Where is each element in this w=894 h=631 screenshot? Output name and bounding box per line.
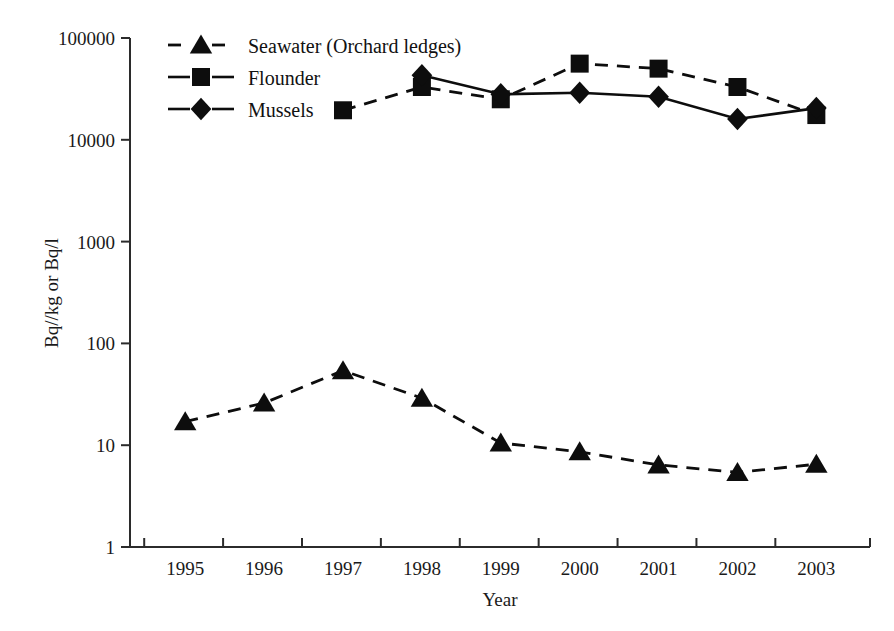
x-tick-label: 1996 [245, 558, 283, 579]
x-axis: 199519961997199819992000200120022003 Yea… [130, 538, 870, 610]
y-axis: 100000100001000100101 Bq//kg or Bq/l [41, 28, 130, 558]
x-axis-title: Year [482, 589, 518, 610]
y-tick-label: 100 [87, 333, 116, 354]
y-tick-label: 1000 [77, 232, 115, 253]
data-point-marker [728, 78, 746, 96]
data-point-marker [650, 60, 668, 78]
plot-series-lines [185, 64, 816, 473]
data-point-marker [727, 108, 748, 131]
series-line-seawater-orchard-ledges [185, 371, 816, 473]
data-point-marker [411, 388, 433, 407]
data-point-marker [490, 433, 512, 452]
y-axis-title: Bq//kg or Bq/l [41, 238, 62, 348]
legend-item: Seawater (Orchard ledges) [168, 35, 461, 59]
y-axis-ticks [121, 38, 130, 547]
data-point-marker [648, 85, 669, 108]
legend-marker-diamond-icon [191, 98, 212, 121]
legend-marker-triangle-icon [190, 35, 212, 54]
data-point-marker [253, 392, 275, 411]
x-tick-label: 2000 [561, 558, 599, 579]
y-tick-label: 10000 [68, 130, 116, 151]
y-tick-label: 1 [106, 537, 116, 558]
chart-container: 100000100001000100101 Bq//kg or Bq/l 199… [0, 0, 894, 631]
x-axis-ticks [144, 538, 870, 547]
x-tick-label: 1997 [324, 558, 362, 579]
x-tick-label: 2003 [797, 558, 835, 579]
x-tick-label: 2001 [640, 558, 678, 579]
x-tick-label: 1999 [482, 558, 520, 579]
x-axis-tick-labels: 199519961997199819992000200120022003 [166, 558, 835, 579]
x-tick-label: 1995 [166, 558, 204, 579]
chart-svg: 100000100001000100101 Bq//kg or Bq/l 199… [0, 0, 894, 631]
legend-item: Flounder [168, 67, 321, 89]
data-point-marker [334, 101, 352, 119]
legend-marker-square-icon [192, 68, 210, 86]
y-axis-tick-labels: 100000100001000100101 [58, 28, 115, 558]
data-point-marker [332, 360, 354, 379]
data-point-marker [805, 454, 827, 473]
legend-label: Flounder [248, 67, 321, 89]
y-tick-label: 100000 [58, 28, 115, 49]
y-tick-label: 10 [96, 435, 115, 456]
data-point-marker [568, 441, 590, 460]
legend-label: Seawater (Orchard ledges) [248, 35, 461, 58]
x-tick-label: 1998 [403, 558, 441, 579]
x-tick-label: 2002 [718, 558, 756, 579]
legend-label: Mussels [248, 99, 314, 121]
data-point-marker [726, 462, 748, 481]
legend-item: Mussels [168, 98, 314, 121]
data-point-marker [571, 55, 589, 73]
data-point-marker [569, 81, 590, 104]
